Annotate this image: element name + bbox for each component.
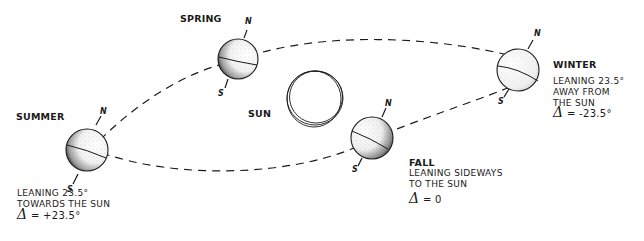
fall-label: FALL [409,157,435,168]
spring-globe [218,30,258,88]
winter-delta: δ = -23.5° [553,107,612,119]
summer-north-label: N [100,106,107,117]
delta-symbol: δ [17,206,27,222]
earth-orbit-seasons-diagram: SUMMER N S LEANING 23.5° TOWARDS THE SUN… [0,0,644,241]
fall-north-label: N [385,98,392,109]
winter-globe [497,40,539,97]
fall-desc-line1: LEANING SIDEWAYS [409,168,503,179]
spring-label: SPRING [180,13,222,24]
winter-label: WINTER [553,59,596,70]
winter-desc-line1: LEANING 23.5° [553,76,624,87]
orbit-path [100,40,512,171]
fall-south-label: S [352,164,358,175]
winter-desc-line2: AWAY FROM [553,87,610,98]
delta-symbol: δ [553,104,563,120]
summer-globe [66,116,108,184]
sun-label: SUN [248,108,271,119]
delta-symbol: δ [409,190,419,206]
summer-delta-value: = +23.5° [31,210,81,221]
summer-desc-line1: LEANING 23.5° [17,188,88,199]
fall-desc-line2: TO THE SUN [409,179,467,190]
spring-north-label: N [245,16,252,27]
winter-north-label: N [534,28,541,39]
spring-south-label: S [218,88,224,99]
winter-delta-value: = -23.5° [567,108,612,119]
fall-delta: δ = 0 [409,193,442,205]
fall-globe [351,108,393,166]
summer-label: SUMMER [16,111,64,122]
summer-delta: δ = +23.5° [17,209,81,221]
sun-circle [287,71,343,127]
fall-delta-value: = 0 [423,194,442,205]
winter-south-label: S [498,96,504,107]
